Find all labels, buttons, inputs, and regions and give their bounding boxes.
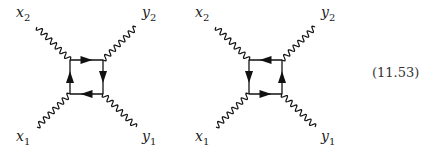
photon-line xyxy=(102,94,137,127)
equation-number: (11.53) xyxy=(372,65,419,80)
arrow-right-icon xyxy=(260,90,272,98)
label-y1-d2: y1 xyxy=(321,128,335,147)
label-x1-d2: x1 xyxy=(195,128,209,147)
photon-line xyxy=(103,26,136,61)
photon-line xyxy=(281,94,316,127)
arrow-left-icon xyxy=(81,90,93,98)
label-y2-d2: y2 xyxy=(321,4,335,23)
arrow-down-icon xyxy=(245,71,253,83)
arrow-left-icon xyxy=(260,56,272,64)
arrow-right-icon xyxy=(81,56,93,64)
label-x1-d1: x1 xyxy=(16,128,30,147)
photon-line xyxy=(36,27,71,60)
photon-line xyxy=(215,27,250,60)
photon-line xyxy=(282,26,315,61)
label-y1-d1: y1 xyxy=(142,128,156,147)
photon-line xyxy=(37,93,70,128)
label-x2-d1: x2 xyxy=(16,4,30,23)
arrow-up-icon xyxy=(278,71,286,83)
photon-line xyxy=(216,93,249,128)
arrow-down-icon xyxy=(99,71,107,83)
label-y2-d1: y2 xyxy=(142,4,156,23)
arrow-up-icon xyxy=(66,71,74,83)
label-x2-d2: x2 xyxy=(195,4,209,23)
